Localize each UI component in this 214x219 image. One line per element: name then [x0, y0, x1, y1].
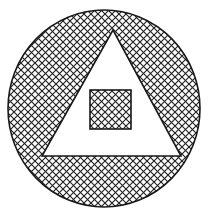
innermost-square-hatch-fill	[90, 90, 131, 129]
figure-canvas	[0, 0, 214, 219]
geometric-figure-svg	[0, 0, 214, 219]
